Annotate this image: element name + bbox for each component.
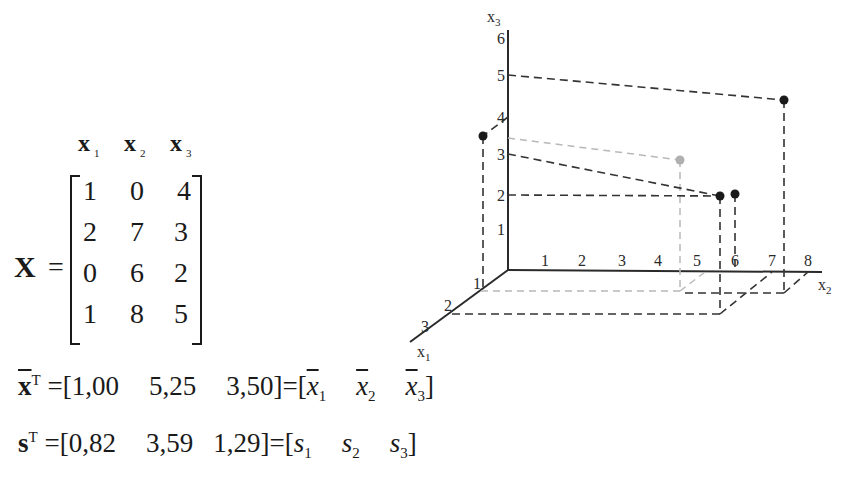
- tick-label: 4: [497, 109, 505, 126]
- x1-tick-labels: 1 2 3: [421, 275, 481, 335]
- axes: [410, 30, 822, 342]
- mean-projection-lines: [478, 138, 705, 291]
- mean-point: [676, 156, 685, 165]
- tick-label: 4: [654, 252, 662, 269]
- x2-axis-label: x2: [818, 276, 832, 296]
- tick-label: 1: [473, 275, 481, 292]
- tick-label: 2: [497, 187, 505, 204]
- x2-axis-line: [508, 270, 822, 272]
- tick-label: 5: [693, 252, 701, 269]
- data-point: [780, 96, 789, 105]
- tick-label: 6: [497, 30, 505, 47]
- scatter-3d-plot: 1 2 3 4 5 6 x3 1 2 3 4 5 6 7 8 x2 1 2 3 …: [0, 0, 846, 492]
- tick-label: 7: [768, 252, 776, 269]
- data-points: [479, 96, 789, 201]
- tick-label: 3: [618, 252, 626, 269]
- x2-tick-labels: 1 2 3 4 5 6 7 8: [541, 252, 812, 269]
- tick-label: 8: [804, 252, 812, 269]
- tick-label: 1: [497, 221, 505, 238]
- data-point: [479, 132, 488, 141]
- tick-label: 2: [578, 252, 586, 269]
- tick-label: 5: [497, 67, 505, 84]
- tick-label: 2: [444, 297, 452, 314]
- data-point: [731, 190, 740, 199]
- data-point: [716, 192, 725, 201]
- tick-label: 6: [731, 252, 739, 269]
- tick-label: 1: [541, 252, 549, 269]
- tick-label: 3: [421, 318, 429, 335]
- x1-axis-label: x1: [417, 343, 431, 363]
- tick-label: 3: [497, 146, 505, 163]
- x3-tick-labels: 1 2 3 4 5 6: [497, 30, 505, 238]
- x3-axis-label: x3: [487, 8, 501, 28]
